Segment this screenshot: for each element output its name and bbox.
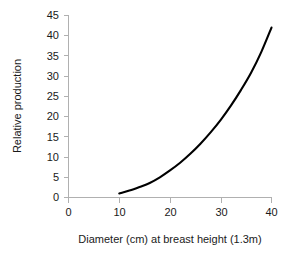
y-tick-label-35: 35: [47, 50, 59, 62]
y-tick-label-25: 25: [47, 90, 59, 102]
x-tick-label-40: 40: [265, 206, 277, 218]
y-tick-label-5: 5: [53, 171, 59, 183]
x-axis-ticks: [69, 198, 272, 204]
chart-plot-area: 0 5 10 15 20 25 30 35 40 45 0 10 20 30 4…: [0, 0, 290, 254]
x-tick-label-0: 0: [65, 206, 71, 218]
x-tick-label-10: 10: [113, 206, 125, 218]
y-axis-ticks: [64, 15, 69, 197]
y-tick-label-20: 20: [47, 110, 59, 122]
y-tick-label-15: 15: [47, 131, 59, 143]
y-tick-label-0: 0: [53, 191, 59, 203]
chart-figure: 0 5 10 15 20 25 30 35 40 45 0 10 20 30 4…: [0, 0, 290, 254]
x-tick-label-20: 20: [164, 206, 176, 218]
y-tick-label-40: 40: [47, 29, 59, 41]
x-tick-label-30: 30: [215, 206, 227, 218]
y-tick-label-10: 10: [47, 151, 59, 163]
y-tick-label-45: 45: [47, 9, 59, 21]
y-axis-title: Relative production: [11, 59, 23, 153]
x-axis-title: Diameter (cm) at breast height (1.3m): [78, 233, 261, 245]
data-series-line: [119, 28, 271, 194]
y-tick-label-30: 30: [47, 70, 59, 82]
